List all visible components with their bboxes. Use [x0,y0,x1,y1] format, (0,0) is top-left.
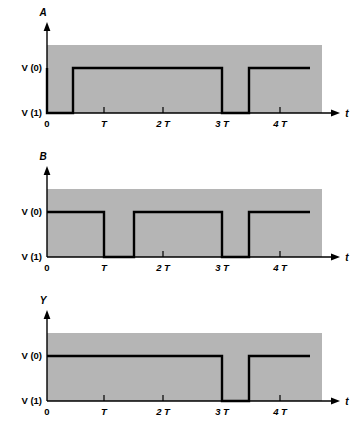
x-axis-arrowhead-a [331,110,340,117]
x-tick-label-2t-b: 2 T [155,262,171,273]
x-tick-label-t-y: T [101,406,108,417]
x-tick-label-4t-a: 4 T [272,118,288,129]
time-axis-label-y: t [345,396,349,407]
y-axis-arrowhead-y [44,310,51,319]
level-low-label-a: V (1) [21,107,42,118]
timing-diagram-figure: A t V (0) V (1) 0 T 2 T 3 T 4 T B t [0,0,360,429]
plot-area-background-b [47,189,322,257]
x-tick-label-3t-b: 3 T [215,262,230,273]
waveform-panel-a: A t V (0) V (1) 0 T 2 T 3 T 4 T [0,0,360,144]
x-axis-arrowhead-y [331,398,340,405]
signal-label-b: B [39,151,46,162]
x-tick-label-2t-a: 2 T [155,118,171,129]
plot-area-background-y [47,333,322,401]
level-low-label-b: V (1) [21,251,42,262]
x-tick-label-3t-a: 3 T [215,118,230,129]
x-tick-label-4t-y: 4 T [272,406,288,417]
x-tick-label-0-a: 0 [44,118,49,129]
x-tick-label-t-a: T [101,118,108,129]
time-axis-label-a: t [345,108,349,119]
x-tick-label-2t-y: 2 T [155,406,171,417]
y-axis-arrowhead-b [44,166,51,175]
level-high-label-a: V (0) [21,62,42,73]
waveform-panel-y: Y t V (0) V (1) 0 T 2 T 3 T 4 T [0,288,360,429]
x-tick-label-4t-b: 4 T [272,262,288,273]
level-high-label-y: V (0) [21,350,42,361]
level-low-label-y: V (1) [21,395,42,406]
time-axis-label-b: t [345,252,349,263]
x-tick-label-0-y: 0 [44,406,49,417]
signal-label-a: A [38,7,46,18]
x-tick-label-t-b: T [101,262,108,273]
signal-label-y: Y [40,295,48,306]
y-axis-arrowhead-a [44,22,51,31]
level-high-label-b: V (0) [21,206,42,217]
x-axis-arrowhead-b [331,254,340,261]
waveform-panel-b: B t V (0) V (1) 0 T 2 T 3 T 4 T [0,144,360,288]
x-tick-label-3t-y: 3 T [215,406,230,417]
x-tick-label-0-b: 0 [44,262,49,273]
plot-area-background-a [47,45,322,113]
